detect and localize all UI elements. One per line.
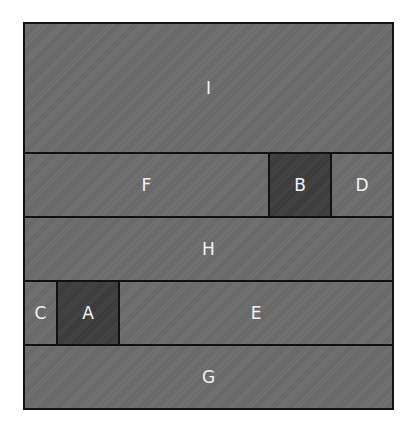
block-label: I <box>206 78 211 98</box>
block-g: G <box>25 344 392 408</box>
block-label: G <box>202 367 215 387</box>
block-label: E <box>251 303 262 323</box>
block-label: C <box>35 303 47 323</box>
block-h: H <box>25 216 392 280</box>
block-e: E <box>118 280 392 344</box>
block-i: I <box>25 24 392 152</box>
block-label: B <box>294 175 306 195</box>
block-b: B <box>268 152 330 216</box>
block-f: F <box>25 152 268 216</box>
block-label: A <box>82 303 94 323</box>
block-label: F <box>142 175 152 195</box>
block-a: A <box>56 280 118 344</box>
block-c: C <box>25 280 56 344</box>
block-label: H <box>202 239 215 259</box>
block-d: D <box>330 152 392 216</box>
block-label: D <box>355 175 368 195</box>
partition-diagram: I F B D H C A E G <box>23 22 394 410</box>
